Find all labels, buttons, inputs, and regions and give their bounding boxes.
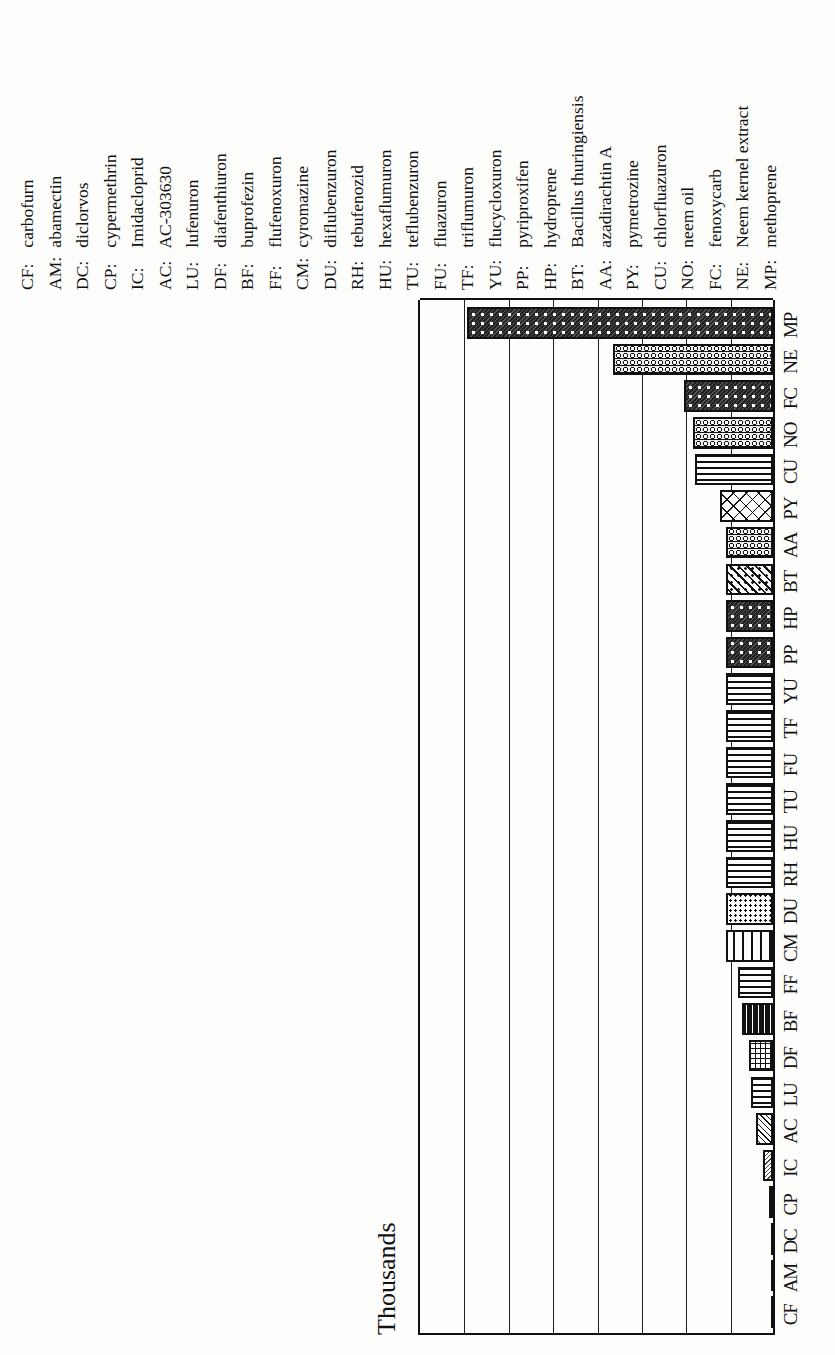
legend-code: AA: (592, 252, 620, 290)
bar-ne (613, 344, 773, 376)
legend-code: AM: (42, 252, 70, 290)
legend-name: diafenthiuron (210, 153, 230, 252)
bar-hu (726, 820, 773, 852)
legend-item: TU: teflubenzuron (399, 95, 427, 290)
legend-name: flufenoxuron (265, 156, 285, 252)
legend-name: azadirachtin A (595, 146, 615, 252)
legend-code: BF: (234, 252, 262, 290)
x-tick-label: HP (780, 600, 802, 637)
legend-name: triflumuron (457, 167, 477, 252)
bar-ic (763, 1150, 773, 1182)
legend-code: FF: (262, 252, 290, 290)
legend-code: DF: (207, 252, 235, 290)
legend-code: MP: (757, 252, 785, 290)
legend-item: MP: methoprene (757, 95, 785, 290)
gridline (509, 300, 510, 1333)
legend-item: BF: buprofezin (234, 95, 262, 290)
legend-code: PP: (509, 252, 537, 290)
x-tick-label: TU (780, 783, 802, 820)
bar-mp (467, 307, 773, 339)
legend-name: fluazuron (430, 181, 450, 252)
legend-code: YU: (482, 252, 510, 290)
gridline (464, 300, 465, 1333)
x-tick-label: LU (780, 1077, 802, 1114)
bar-ff (738, 967, 774, 999)
bar-df (749, 1040, 773, 1072)
x-tick-label: DF (780, 1040, 802, 1077)
legend-code: TF: (454, 252, 482, 290)
legend-name: chlorfluazuron (650, 145, 670, 252)
bar-cu (695, 454, 773, 486)
abbreviation-legend: CF: carbofurnAM: abamectinDC: diclorvosC… (14, 95, 784, 290)
legend-item: TF: triflumuron (454, 95, 482, 290)
legend-name: pymetrozine (622, 160, 642, 252)
legend-item: HP: hydroprene (537, 95, 565, 290)
legend-code: DC: (69, 252, 97, 290)
legend-code: IC: (124, 252, 152, 290)
gridline (553, 300, 554, 1333)
bar-bt (726, 564, 773, 596)
x-tick-label: YU (780, 673, 802, 710)
bar-bf (742, 1003, 773, 1035)
legend-name: lufenuron (182, 180, 202, 252)
bar-cm (726, 930, 773, 962)
legend-name: flucycloxuron (485, 149, 505, 252)
legend-name: methoprene (760, 165, 780, 252)
legend-item: DC: diclorvos (69, 95, 97, 290)
x-tick-label: PP (780, 637, 802, 674)
x-axis-baseline (773, 300, 775, 1335)
legend-name: tebufenozid (347, 165, 367, 252)
x-tick-label: BF (780, 1003, 802, 1040)
legend-item: LU: lufenuron (179, 95, 207, 290)
legend-code: CM: (289, 252, 317, 290)
legend-item: CF: carbofurn (14, 95, 42, 290)
x-tick-label: CP (780, 1186, 802, 1223)
legend-code: CU: (647, 252, 675, 290)
bar-lu (751, 1077, 773, 1109)
legend-item: AC: AC-303630 (152, 95, 180, 290)
legend-code: TU: (399, 252, 427, 290)
legend-item: CM: cyromazine (289, 95, 317, 290)
legend-code: HU: (372, 252, 400, 290)
legend-item: PP: pyriproxifen (509, 95, 537, 290)
legend-code: RH: (344, 252, 372, 290)
legend-name: cypermethrin (100, 154, 120, 252)
legend-code: NE: (729, 252, 757, 290)
legend-name: AC-303630 (155, 166, 175, 252)
legend-item: DF: diafenthiuron (207, 95, 235, 290)
x-tick-label: PY (780, 490, 802, 527)
x-tick-label: AA (780, 527, 802, 564)
x-tick-label: FF (780, 967, 802, 1004)
legend-name: diflubenzuron (320, 149, 340, 252)
x-tick-label: AM (780, 1260, 802, 1297)
x-tick-label: CU (780, 454, 802, 491)
gridline (642, 300, 643, 1333)
legend-item: PY: pymetrozine (619, 95, 647, 290)
x-tick-label: FC (780, 380, 802, 417)
legend-code: HP: (537, 252, 565, 290)
plot-area (418, 300, 773, 1335)
rotated-chart-frame: Thousands CFAMDCCPICACLUDFBFFFCMDURHHUTU… (0, 0, 835, 1355)
bar-no (693, 417, 773, 449)
legend-item: NO: neem oil (674, 95, 702, 290)
x-tick-label: MP (780, 307, 802, 344)
legend-name: neem oil (677, 187, 697, 252)
legend-name: Neem kernel extract (732, 106, 752, 252)
legend-item: HU: hexaflumuron (372, 95, 400, 290)
legend-item: RH: tebufenozid (344, 95, 372, 290)
legend-item: DU: diflubenzuron (317, 95, 345, 290)
bar-py (720, 490, 773, 522)
x-tick-label: HU (780, 820, 802, 857)
legend-code: FC: (702, 252, 730, 290)
y-axis-label: Thousands (372, 1222, 402, 1335)
legend-item: CP: cypermethrin (97, 95, 125, 290)
legend-item: FU: fluazuron (427, 95, 455, 290)
legend-name: hydroprene (540, 168, 560, 252)
gridline (598, 300, 599, 1333)
x-tick-label: NO (780, 417, 802, 454)
bar-du (726, 893, 773, 925)
legend-item: CU: chlorfluazuron (647, 95, 675, 290)
legend-name: fenoxycarb (705, 169, 725, 252)
legend-code: BT: (564, 252, 592, 290)
legend-code: CF: (14, 252, 42, 290)
